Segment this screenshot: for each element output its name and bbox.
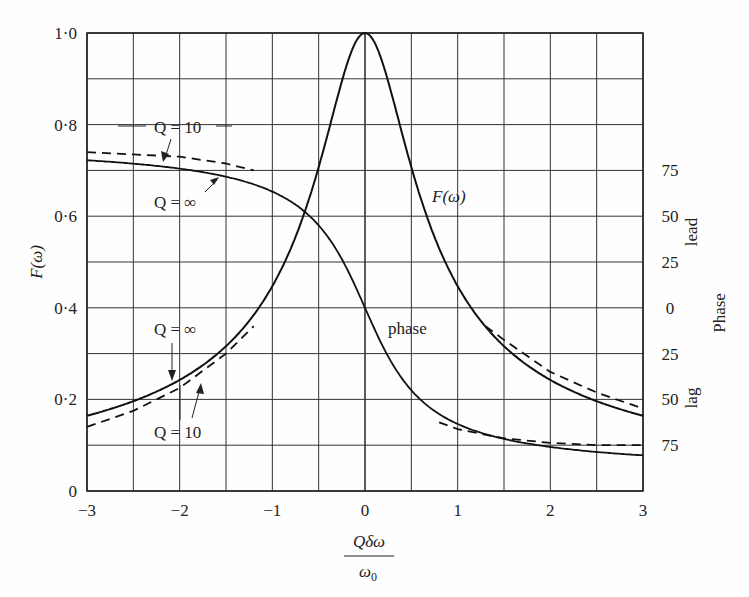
y-tick-label: 0·8: [54, 116, 77, 135]
y-axis-label: F(ω): [27, 245, 46, 280]
arrowhead-icon: [196, 383, 204, 394]
x-tick-label: 2: [546, 501, 555, 520]
annotation-qinf-top: Q = ∞: [154, 193, 196, 212]
y-tick-label: 1·0: [54, 24, 77, 43]
lag-label: lag: [682, 387, 701, 408]
x-tick-label: 0: [361, 501, 370, 520]
y-tick-label: 0·6: [54, 207, 77, 226]
x-tick-label: −1: [263, 501, 281, 520]
y-tick-label: 0·4: [54, 299, 77, 318]
phase-tick-label: 25: [662, 345, 679, 364]
x-tick-label: −3: [78, 501, 96, 520]
annotation-q10-top: Q = 10: [154, 118, 201, 137]
annotation-qinf-bottom: Q = ∞: [154, 320, 196, 339]
phase-tick-label: 75: [662, 436, 679, 455]
annotation-q10-bottom: Q = 10: [154, 423, 201, 442]
y-tick-label: 0: [69, 482, 78, 501]
curve-label-phase: phase: [388, 319, 427, 338]
phase-tick-label: 50: [662, 207, 679, 226]
phase-curve-q10-high: [439, 422, 643, 445]
f-omega-curve-q10-high: [486, 326, 644, 409]
x-label-denominator: ω0: [359, 562, 377, 584]
x-tick-label: 3: [639, 501, 648, 520]
y-tick-label: 0·2: [54, 390, 77, 409]
phase-tick-label: 25: [662, 253, 679, 272]
resonance-chart: −3−2−1012300·20·40·60·81·07550250255075 …: [0, 0, 749, 597]
phase-tick-label: 75: [662, 161, 679, 180]
lead-label: lead: [682, 217, 701, 246]
x-tick-label: −2: [171, 501, 189, 520]
phase-tick-label: 50: [662, 390, 679, 409]
arrowhead-icon: [168, 370, 176, 381]
curve-label-f: F(ω): [431, 187, 466, 206]
phase-axis-label: Phase: [710, 293, 729, 333]
x-tick-label: 1: [453, 501, 462, 520]
phase-tick-label: 0: [666, 299, 675, 318]
x-label-numerator: Qδω: [353, 532, 385, 551]
arrowhead-icon: [210, 177, 219, 185]
